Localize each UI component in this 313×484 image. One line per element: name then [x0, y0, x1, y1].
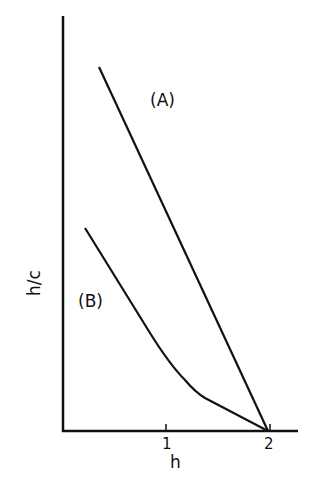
series-b-label: (B) — [78, 291, 103, 311]
x-tick-label-1: 1 — [162, 435, 172, 453]
series-a-line — [99, 67, 268, 431]
x-axis-label: h — [170, 452, 181, 472]
y-axis-label: h/c — [24, 270, 44, 296]
chart: (A) (B) 1 2 h h/c — [0, 0, 313, 484]
series-a-label: (A) — [150, 90, 175, 110]
x-tick-label-2: 2 — [264, 435, 274, 453]
series-b-curve — [85, 228, 268, 431]
